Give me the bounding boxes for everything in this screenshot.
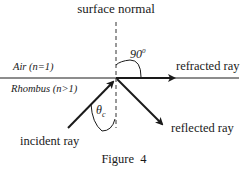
reflected-ray-arrow [117,79,162,124]
right-angle-degree: 0 [142,47,146,55]
critical-angle-label: θc [96,103,106,119]
incident-ray-label: incident ray [20,134,80,148]
figure-caption: Figure 4 [101,152,147,166]
critical-angle-diagram: surface normal Air (n=1) Rhombus (n>1) r… [0,0,249,169]
right-angle-value: 90 [130,47,142,61]
theta-subscript: c [102,110,106,119]
refracted-ray-label: refracted ray [176,59,240,73]
right-angle-label: 900 [130,47,146,61]
right-angle-arc [116,60,141,77]
air-medium-label: Air (n=1) [12,61,54,73]
rhombus-medium-label: Rhombus (n>1) [10,83,78,95]
surface-normal-label: surface normal [77,1,155,16]
reflected-ray-label: reflected ray [171,121,235,135]
